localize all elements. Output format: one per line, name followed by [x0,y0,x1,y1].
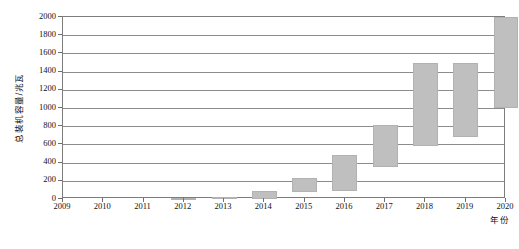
x-tick-label: 2020 [485,201,519,211]
y-tick-label: 200 [14,175,56,184]
y-tick-label: 1000 [14,103,56,112]
y-tick-label: 1200 [14,84,56,93]
bar-2014 [252,191,277,199]
x-tick-label: 2019 [445,201,485,211]
y-tick-label: 1400 [14,66,56,75]
bar-2016 [332,155,357,191]
x-tick-mark [263,198,264,202]
x-tick-label: 2018 [404,201,444,211]
x-tick-mark [143,198,144,202]
x-tick-label: 2016 [324,201,364,211]
y-tick-label: 800 [14,121,56,130]
x-axis-title: 年份 [490,213,509,225]
x-tick-label: 2010 [82,201,122,211]
x-tick-label: 2009 [42,201,82,211]
y-tick-label: 400 [14,157,56,166]
x-tick-mark [223,198,224,202]
x-tick-label: 2013 [203,201,243,211]
x-tick-label: 2015 [284,201,324,211]
x-tick-label: 2017 [364,201,404,211]
x-tick-mark [304,198,305,202]
x-tick-mark [62,198,63,202]
figure-caption [0,240,519,249]
y-tick-label: 2000 [14,12,56,21]
plot-area [62,16,505,198]
x-tick-mark [384,198,385,202]
bar-2013 [212,197,237,199]
x-tick-mark [183,198,184,202]
chart-container: 总装机容量/兆瓦 2000180016001400120010008006004… [0,0,519,249]
x-tick-mark [465,198,466,202]
x-tick-mark [102,198,103,202]
bar-2012 [171,198,196,200]
bar-2015 [292,178,317,192]
x-tick-mark [424,198,425,202]
x-tick-label: 2012 [163,201,203,211]
x-tick-label: 2011 [123,201,163,211]
x-tick-mark [344,198,345,202]
bar-2017 [373,125,398,166]
y-tick-label: 600 [14,139,56,148]
y-tick-label: 1800 [14,30,56,39]
y-tick-label: 1600 [14,48,56,57]
x-tick-label: 2014 [243,201,283,211]
bar-2020 [494,17,519,108]
bar-2019 [453,63,478,136]
bars-layer [63,17,504,197]
bar-2018 [413,63,438,146]
x-tick-mark [505,198,506,202]
